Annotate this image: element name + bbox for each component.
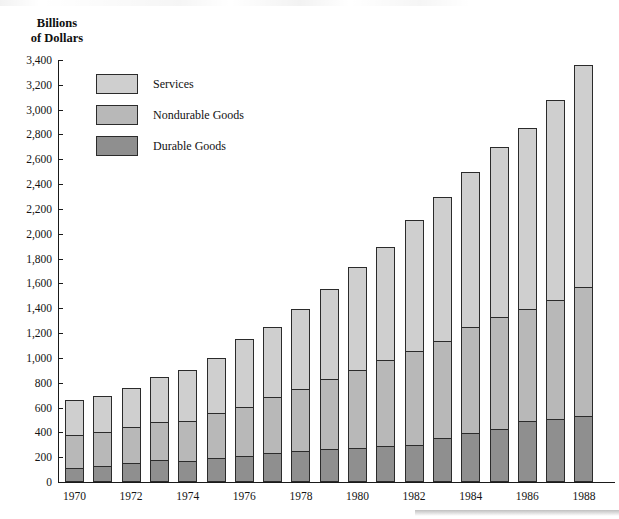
y-tick-mark bbox=[58, 457, 63, 458]
bar-segment-durable bbox=[490, 429, 509, 482]
y-tick-label: 0 bbox=[2, 476, 52, 488]
bar-1988 bbox=[574, 65, 593, 482]
y-tick-label: 1,200 bbox=[2, 327, 52, 339]
legend-item: Durable Goods bbox=[96, 136, 226, 156]
bar-segment-durable bbox=[433, 438, 452, 482]
bar-segment-durable bbox=[178, 461, 197, 482]
bar-segment-durable bbox=[263, 453, 282, 482]
y-tick-label: 2,200 bbox=[2, 203, 52, 215]
x-tick-label: 1974 bbox=[176, 490, 199, 502]
bar-1976 bbox=[235, 339, 254, 482]
y-tick-mark bbox=[58, 60, 63, 61]
bar-segment-durable bbox=[291, 451, 310, 482]
x-tick-label: 1978 bbox=[289, 490, 312, 502]
bar-segment-durable bbox=[461, 433, 480, 482]
y-tick-label: 1,000 bbox=[2, 352, 52, 364]
y-tick-mark bbox=[58, 358, 63, 359]
scan-artifact-top bbox=[0, 0, 619, 6]
y-tick-label: 2,000 bbox=[2, 228, 52, 240]
bar-segment-durable bbox=[93, 466, 112, 482]
bar-segment-durable bbox=[546, 419, 565, 482]
y-tick-label: 3,000 bbox=[2, 104, 52, 116]
bar-segment-durable bbox=[65, 468, 84, 482]
legend-item: Services bbox=[96, 74, 194, 94]
bar-1982 bbox=[405, 220, 424, 482]
y-axis-title: Billions of Dollars bbox=[14, 16, 100, 46]
y-tick-mark bbox=[58, 333, 63, 334]
legend-item: Nondurable Goods bbox=[96, 105, 244, 125]
y-tick-label: 2,600 bbox=[2, 153, 52, 165]
bar-1986 bbox=[518, 128, 537, 482]
bar-segment-durable bbox=[574, 416, 593, 482]
bar-1970 bbox=[65, 400, 84, 482]
bar-1987 bbox=[546, 100, 565, 482]
y-tick-mark bbox=[58, 383, 63, 384]
y-tick-label: 200 bbox=[2, 451, 52, 463]
y-tick-mark bbox=[58, 482, 63, 483]
x-tick-label: 1980 bbox=[346, 490, 369, 502]
x-tick-label: 1976 bbox=[233, 490, 256, 502]
bar-1977 bbox=[263, 327, 282, 482]
y-axis-line bbox=[58, 60, 59, 483]
bar-1971 bbox=[93, 396, 112, 482]
x-tick-label: 1972 bbox=[120, 490, 143, 502]
y-tick-label: 1,800 bbox=[2, 253, 52, 265]
x-tick-label: 1986 bbox=[516, 490, 539, 502]
bar-segment-durable bbox=[348, 448, 367, 482]
bar-1979 bbox=[320, 289, 339, 482]
bar-segment-durable bbox=[518, 421, 537, 482]
x-tick-label: 1970 bbox=[63, 490, 86, 502]
y-tick-label: 800 bbox=[2, 377, 52, 389]
y-tick-label: 400 bbox=[2, 426, 52, 438]
y-tick-mark bbox=[58, 408, 63, 409]
y-tick-mark bbox=[58, 234, 63, 235]
y-tick-label: 2,800 bbox=[2, 128, 52, 140]
y-tick-label: 3,400 bbox=[2, 54, 52, 66]
bar-segment-durable bbox=[150, 460, 169, 482]
bar-segment-durable bbox=[320, 449, 339, 483]
y-tick-mark bbox=[58, 283, 63, 284]
y-tick-mark bbox=[58, 110, 63, 111]
legend-swatch bbox=[96, 105, 138, 125]
bar-1981 bbox=[376, 247, 395, 482]
y-tick-mark bbox=[58, 184, 63, 185]
bar-1980 bbox=[348, 267, 367, 482]
bar-1978 bbox=[291, 309, 310, 482]
legend-swatch bbox=[96, 136, 138, 156]
y-tick-label: 2,400 bbox=[2, 178, 52, 190]
x-tick-label: 1988 bbox=[572, 490, 595, 502]
x-tick-label: 1982 bbox=[403, 490, 426, 502]
x-axis-line bbox=[58, 482, 615, 483]
bar-segment-durable bbox=[405, 445, 424, 482]
bar-segment-durable bbox=[376, 446, 395, 482]
bar-segment-durable bbox=[207, 458, 226, 482]
y-tick-mark bbox=[58, 159, 63, 160]
bar-1973 bbox=[150, 377, 169, 482]
legend-label: Durable Goods bbox=[153, 139, 226, 154]
y-tick-mark bbox=[58, 134, 63, 135]
y-tick-mark bbox=[58, 85, 63, 86]
y-tick-label: 600 bbox=[2, 402, 52, 414]
bar-1972 bbox=[122, 388, 141, 482]
y-tick-mark bbox=[58, 432, 63, 433]
bar-1975 bbox=[207, 358, 226, 482]
legend-label: Nondurable Goods bbox=[153, 108, 244, 123]
bar-1985 bbox=[490, 147, 509, 482]
y-tick-label: 1,600 bbox=[2, 277, 52, 289]
scan-artifact-page-edge bbox=[415, 510, 619, 516]
y-tick-label: 3,200 bbox=[2, 79, 52, 91]
bar-1983 bbox=[433, 197, 452, 482]
y-tick-mark bbox=[58, 259, 63, 260]
bar-1974 bbox=[178, 370, 197, 482]
bar-segment-durable bbox=[235, 456, 254, 482]
bar-1984 bbox=[461, 172, 480, 482]
y-tick-label: 1,400 bbox=[2, 302, 52, 314]
y-tick-mark bbox=[58, 308, 63, 309]
y-tick-mark bbox=[58, 209, 63, 210]
x-tick-label: 1984 bbox=[459, 490, 482, 502]
chart-page: Billions of Dollars 02004006008001,0001,… bbox=[0, 0, 619, 519]
legend-swatch bbox=[96, 74, 138, 94]
bar-segment-durable bbox=[122, 463, 141, 482]
legend-label: Services bbox=[153, 77, 194, 92]
